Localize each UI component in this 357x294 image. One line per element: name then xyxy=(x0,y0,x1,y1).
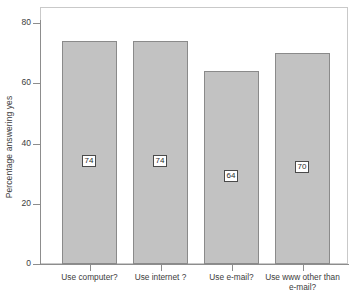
x-tick-mark xyxy=(232,265,233,271)
y-tick-label: 0 xyxy=(5,259,31,268)
x-tick-label-line: Use www other than xyxy=(255,272,351,282)
bar-value-label: 74 xyxy=(82,155,97,167)
y-tick-label: 60 xyxy=(5,78,31,87)
bar[interactable] xyxy=(204,71,259,264)
y-tick-mark xyxy=(33,23,40,24)
y-tick-mark xyxy=(33,204,40,205)
x-tick-label: Use www other thane-mail? xyxy=(255,272,351,292)
bar-chart: Percentage answering yes 020406080 74746… xyxy=(0,0,357,294)
y-tick-label: 80 xyxy=(5,18,31,27)
bar[interactable] xyxy=(62,41,117,264)
x-tick-mark xyxy=(161,265,162,271)
y-tick-mark xyxy=(33,83,40,84)
bar-value-label: 74 xyxy=(153,155,168,167)
x-tick-mark xyxy=(303,265,304,271)
y-tick-label: 20 xyxy=(5,199,31,208)
y-axis-line xyxy=(40,20,41,265)
bar[interactable] xyxy=(133,41,188,264)
bar[interactable] xyxy=(275,53,330,264)
y-tick-mark xyxy=(33,144,40,145)
bar-value-label: 64 xyxy=(224,170,239,182)
x-tick-label-line: e-mail? xyxy=(255,282,351,292)
y-tick-mark xyxy=(33,264,40,265)
bar-value-label: 70 xyxy=(295,161,310,173)
y-tick-label: 40 xyxy=(5,139,31,148)
x-tick-mark xyxy=(90,265,91,271)
